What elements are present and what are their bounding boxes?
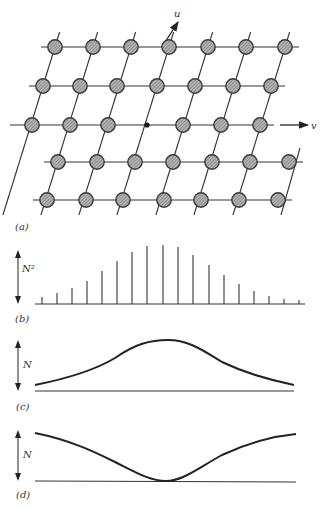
arrow-down-icon [15, 383, 21, 391]
panel-c-curve [35, 340, 294, 385]
panel-d-dip-envelope: N (d) [15, 430, 296, 500]
lattice-atom [51, 155, 65, 169]
lattice-atom [271, 193, 285, 207]
lattice-atom [90, 155, 104, 169]
arrow-down-icon [15, 473, 21, 481]
panel-a-label: (a) [15, 221, 29, 232]
panel-c-label: (c) [16, 401, 30, 412]
panel-c-axis-label: N [22, 359, 33, 370]
spectrum-sticks [42, 245, 299, 304]
panel-d-axis-label: N [22, 449, 33, 460]
lattice-atoms [25, 40, 296, 207]
lattice-atom [110, 79, 124, 93]
lattice-atom [282, 155, 296, 169]
lattice-atom [116, 193, 130, 207]
v-axis-label: v [311, 120, 317, 131]
panel-b-label: (b) [15, 313, 29, 324]
lattice-atom [232, 193, 246, 207]
lattice-atom [162, 40, 176, 54]
lattice-atom [194, 193, 208, 207]
arrow-up-icon [15, 340, 21, 348]
lattice-atom [86, 40, 100, 54]
panel-a-lattice: u v (a) [3, 8, 317, 232]
arrow-down-icon [15, 296, 21, 304]
lattice-atom [201, 40, 215, 54]
lattice-atom [264, 79, 278, 93]
lattice-atom [25, 118, 39, 132]
lattice-atom [48, 40, 62, 54]
lattice-diffraction-figure: u v (a) N² (b) N (c) N (d) [0, 0, 324, 508]
lattice-atom [253, 118, 267, 132]
lattice-atom [150, 79, 164, 93]
lattice-atom [188, 79, 202, 93]
u-axis-label: u [174, 8, 180, 19]
panel-b-stick-spectrum: N² (b) [15, 245, 305, 324]
lattice-atom [79, 193, 93, 207]
lattice-atom [214, 118, 228, 132]
lattice-atom [73, 79, 87, 93]
lattice-atom [157, 193, 171, 207]
arrow-up-icon [15, 430, 21, 438]
lattice-atom [278, 40, 292, 54]
lattice-atom [124, 40, 138, 54]
lattice-atom [166, 155, 180, 169]
origin-point [144, 122, 149, 127]
arrow-up-icon [15, 250, 21, 258]
lattice-atom [36, 79, 50, 93]
lattice-atom [226, 79, 240, 93]
lattice-atom [40, 193, 54, 207]
lattice-atom [128, 155, 142, 169]
lattice-atom [243, 155, 257, 169]
lattice-atom [63, 118, 77, 132]
lattice-atom [176, 118, 190, 132]
panel-b-axis-label: N² [21, 263, 35, 274]
lattice-atom [239, 40, 253, 54]
panel-d-curve [35, 433, 296, 481]
panel-d-label: (d) [16, 489, 30, 500]
lattice-atom [101, 118, 115, 132]
panel-c-peak-envelope: N (c) [15, 340, 294, 412]
lattice-atom [205, 155, 219, 169]
